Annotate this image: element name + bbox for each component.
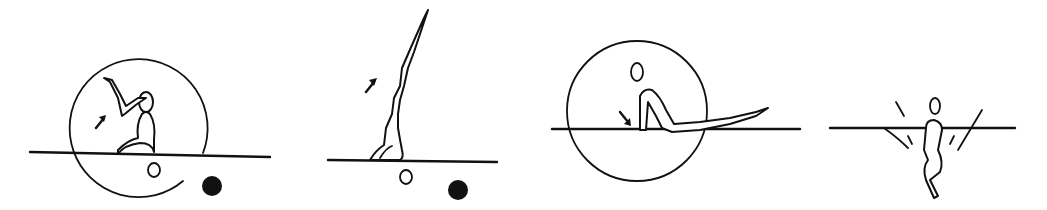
figure-leg-1 xyxy=(104,78,146,116)
figure-body-1 xyxy=(118,112,155,154)
filled-marker-2 xyxy=(448,180,468,200)
gymnastics-diagram xyxy=(0,0,1047,210)
figure-body-4 xyxy=(924,120,942,198)
panel-3 xyxy=(552,41,800,181)
motion-line-icon xyxy=(896,102,904,116)
figure-body-2 xyxy=(370,10,428,160)
panel-4 xyxy=(830,98,1015,198)
hollow-marker-2 xyxy=(400,170,412,184)
figure-body-3 xyxy=(640,90,768,132)
motion-line-icon xyxy=(950,136,954,144)
motion-line-icon xyxy=(958,110,982,150)
bar-line-2 xyxy=(328,160,497,162)
panel-1 xyxy=(30,59,270,197)
bar-line-1 xyxy=(30,152,270,157)
filled-marker-1 xyxy=(202,176,222,196)
rotation-circle-3 xyxy=(567,41,707,181)
hollow-marker-1 xyxy=(148,163,160,177)
motion-line-icon xyxy=(884,128,908,148)
figure-head-3 xyxy=(631,63,643,81)
panel-2 xyxy=(328,10,497,200)
figure-head-4 xyxy=(930,98,940,114)
motion-line-icon xyxy=(908,136,912,144)
arrow-icon-3 xyxy=(620,112,628,122)
